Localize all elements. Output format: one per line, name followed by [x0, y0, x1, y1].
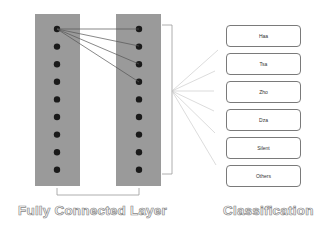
neuron-node — [54, 149, 60, 155]
layer-bracket — [57, 25, 172, 195]
neuron-node — [136, 114, 142, 120]
class-box-haa: Haa — [226, 25, 301, 47]
neuron-node — [136, 131, 142, 137]
neuron-node — [136, 96, 142, 102]
class-box-zho: Zho — [226, 81, 301, 103]
class-box-tsa: Tsa — [226, 53, 301, 75]
neuron-node — [136, 167, 142, 173]
neuron-node — [54, 114, 60, 120]
neuron-node — [54, 43, 60, 49]
neuron-node — [54, 61, 60, 67]
classification-fan-lines — [172, 50, 218, 165]
class-box-others: Others — [226, 165, 301, 187]
neuron-node — [136, 61, 142, 67]
class-box-dza: Dza — [226, 109, 301, 131]
neuron-node — [54, 167, 60, 173]
neuron-node — [54, 131, 60, 137]
neuron-node — [54, 96, 60, 102]
neuron-node — [54, 79, 60, 85]
classification-caption: Classification — [223, 203, 314, 218]
fully-connected-layer-caption: Fully Connected Layer — [18, 203, 167, 218]
connection-lines — [57, 29, 139, 82]
nodes-left — [54, 26, 60, 173]
neuron-node — [136, 149, 142, 155]
class-box-silent: Silent — [226, 137, 301, 159]
neuron-node — [136, 43, 142, 49]
nodes-right — [136, 26, 142, 173]
